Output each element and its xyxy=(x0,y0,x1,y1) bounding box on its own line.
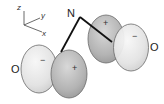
atom-o-right-label: O xyxy=(150,42,159,53)
axis-z-label: z xyxy=(17,4,21,12)
right-inner-sign: + xyxy=(103,19,108,28)
atom-o-left-label: O xyxy=(11,64,20,75)
axis-x-label: x xyxy=(42,30,46,38)
right-outer-sign: − xyxy=(132,32,137,41)
axis-y-label: y xyxy=(41,12,45,20)
atom-n-label: N xyxy=(67,8,75,19)
orbital-diagram xyxy=(0,0,164,104)
axes-icon xyxy=(24,11,42,32)
left-inner-sign: + xyxy=(72,64,77,73)
left-inner-lobe xyxy=(51,50,87,98)
bond-n-o-left xyxy=(61,17,80,52)
left-outer-sign: − xyxy=(40,56,45,65)
right-outer-lobe xyxy=(114,24,149,71)
